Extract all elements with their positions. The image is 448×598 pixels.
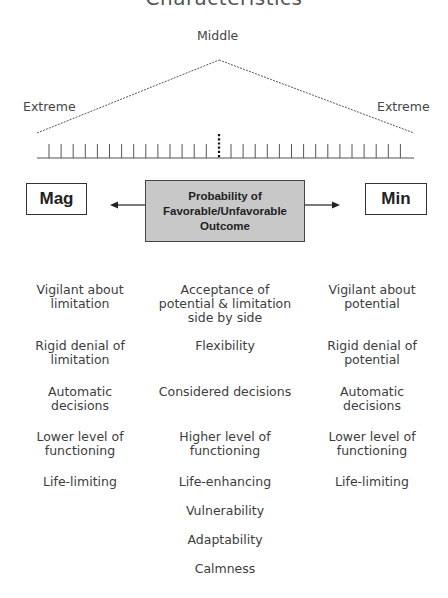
center-characteristic-item: Vulnerability: [155, 504, 295, 518]
center-characteristic-item: Life-enhancing: [155, 475, 295, 489]
center-characteristic-item: Flexibility: [155, 339, 295, 353]
characteristic-text-line: Considered decisions: [155, 385, 295, 399]
characteristic-text-line: Vulnerability: [155, 504, 295, 518]
center-box-line-2: Favorable/Unfavorable: [163, 204, 287, 219]
characteristic-text-line: Acceptance of: [155, 283, 295, 297]
characteristic-text-line: Life-limiting: [312, 475, 432, 489]
characteristic-text-line: Vigilant about: [312, 283, 432, 297]
characteristic-text-line: Rigid denial of: [20, 339, 140, 353]
center-characteristic-item: Calmness: [155, 562, 295, 576]
left-characteristic-item: Life-limiting: [20, 475, 140, 489]
center-box-line-1: Probability of: [188, 189, 261, 204]
left-characteristic-item: Lower level offunctioning: [20, 430, 140, 458]
probability-outcome-box: Probability of Favorable/Unfavorable Out…: [145, 180, 305, 242]
characteristic-text-line: potential: [312, 297, 432, 311]
mag-box: Mag: [26, 183, 87, 215]
center-characteristic-item: Acceptance ofpotential & limitationside …: [155, 283, 295, 325]
right-characteristic-item: Automaticdecisions: [312, 385, 432, 413]
right-characteristic-item: Lower level offunctioning: [312, 430, 432, 458]
characteristic-text-line: decisions: [312, 399, 432, 413]
center-characteristic-item: Considered decisions: [155, 385, 295, 399]
left-arrowhead: [110, 202, 118, 209]
characteristic-text-line: Automatic: [312, 385, 432, 399]
characteristic-text-line: functioning: [312, 444, 432, 458]
characteristic-text-line: Life-enhancing: [155, 475, 295, 489]
right-characteristic-item: Vigilant aboutpotential: [312, 283, 432, 311]
characteristic-text-line: Vigilant about: [20, 283, 140, 297]
characteristic-text-line: limitation: [20, 353, 140, 367]
mag-label: Mag: [40, 189, 74, 209]
characteristic-text-line: functioning: [20, 444, 140, 458]
min-box: Min: [365, 183, 427, 215]
characteristic-text-line: side by side: [155, 311, 295, 325]
left-characteristic-item: Vigilant aboutlimitation: [20, 283, 140, 311]
scale-ticks: [49, 144, 400, 158]
characteristic-text-line: Flexibility: [155, 339, 295, 353]
center-characteristic-item: Higher level offunctioning: [155, 430, 295, 458]
characteristic-text-line: Rigid denial of: [312, 339, 432, 353]
left-characteristic-item: Automaticdecisions: [20, 385, 140, 413]
left-characteristic-item: Rigid denial oflimitation: [20, 339, 140, 367]
right-arrowhead: [332, 202, 340, 209]
characteristic-text-line: Higher level of: [155, 430, 295, 444]
center-box-line-3: Outcome: [200, 219, 250, 234]
characteristic-text-line: Life-limiting: [20, 475, 140, 489]
characteristic-text-line: decisions: [20, 399, 140, 413]
right-characteristic-item: Life-limiting: [312, 475, 432, 489]
characteristic-text-line: limitation: [20, 297, 140, 311]
characteristic-text-line: functioning: [155, 444, 295, 458]
right-characteristic-item: Rigid denial ofpotential: [312, 339, 432, 367]
center-characteristic-item: Adaptability: [155, 533, 295, 547]
characteristic-text-line: Adaptability: [155, 533, 295, 547]
triangle-dashed-lines: [37, 60, 414, 133]
characteristic-text-line: Lower level of: [20, 430, 140, 444]
characteristic-text-line: potential & limitation: [155, 297, 295, 311]
min-label: Min: [381, 189, 410, 209]
characteristic-text-line: Lower level of: [312, 430, 432, 444]
characteristic-text-line: potential: [312, 353, 432, 367]
characteristic-text-line: Calmness: [155, 562, 295, 576]
characteristic-text-line: Automatic: [20, 385, 140, 399]
